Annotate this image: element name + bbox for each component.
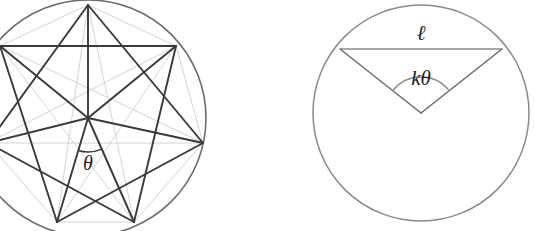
chord-radius <box>340 49 421 113</box>
star-edge <box>0 46 57 222</box>
faint-chord <box>176 46 203 143</box>
ktheta-label: kθ <box>411 66 431 90</box>
chord-length-label: ℓ <box>417 21 426 45</box>
star-polygon-path <box>0 5 203 222</box>
faint-chord <box>0 5 88 46</box>
left-diagram-group: θ <box>0 0 206 231</box>
faint-chord <box>88 5 176 46</box>
faint-chord-web <box>0 5 203 222</box>
right-diagram-group: ℓ kθ <box>313 5 529 221</box>
theta-label: θ <box>83 152 93 174</box>
chord-radius <box>421 49 502 113</box>
star-edge <box>134 46 176 222</box>
star-edge <box>57 143 203 222</box>
geometry-figure: θ ℓ kθ <box>0 0 534 231</box>
center-radii-group <box>0 5 203 222</box>
